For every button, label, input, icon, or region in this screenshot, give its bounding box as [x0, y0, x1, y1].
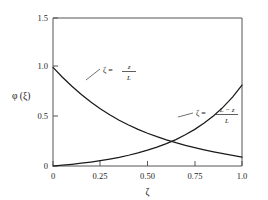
chart-figure: 1.5 1.0 0.5 0 0 0.25 0.50 0.75 1.0 φ (ξ)…: [0, 0, 268, 200]
y-tick-label-0: 0: [44, 161, 48, 171]
y-axis-title: φ (ξ): [12, 91, 30, 102]
y-tick-label-1_0: 1.0: [37, 61, 48, 71]
x-tick-label-0_75: 0.75: [188, 171, 203, 181]
x-tick-label-0_50: 0.50: [140, 171, 155, 181]
y-tick-label-1_5: 1.5: [37, 13, 48, 23]
annotation-lower-denominator: L: [224, 117, 229, 125]
annotation-upper-numerator: z: [127, 63, 131, 71]
x-tick-label-0: 0: [51, 171, 55, 181]
x-tick-label-0_25: 0.25: [93, 171, 108, 181]
x-tick-label-1_0: 1.0: [237, 171, 248, 181]
chart-background: [0, 0, 268, 200]
x-axis-title: ζ: [146, 187, 150, 198]
annotation-upper-denominator: L: [126, 74, 131, 82]
annotation-lower-numerator: L − z: [219, 106, 235, 114]
plot-svg: 1.5 1.0 0.5 0 0 0.25 0.50 0.75 1.0 φ (ξ)…: [0, 0, 268, 200]
y-tick-label-0_5: 0.5: [37, 111, 48, 121]
annotation-lower-lhs: ζ =: [196, 109, 206, 118]
annotation-upper-lhs: ζ =: [103, 66, 113, 75]
